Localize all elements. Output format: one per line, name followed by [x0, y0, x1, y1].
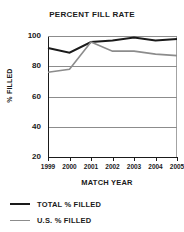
x-tick-label: 2004 — [144, 163, 168, 170]
legend-label: U.S. % FILLED — [37, 216, 91, 225]
legend-label: TOTAL % FILLED — [37, 200, 101, 209]
x-tick-label: 1999 — [36, 163, 60, 170]
x-tick-label: 2002 — [101, 163, 125, 170]
series-line — [48, 42, 177, 72]
legend-item: TOTAL % FILLED — [10, 196, 184, 212]
y-axis-title: % FILLED — [6, 56, 13, 116]
legend-line-icon — [10, 220, 30, 221]
y-tick-label: 20 — [21, 153, 41, 161]
x-tick-label: 2000 — [58, 163, 82, 170]
y-tick-label: 80 — [21, 62, 41, 70]
chart-figure: PERCENT FILL RATE % FILLED 10080604020 1… — [0, 0, 184, 232]
y-tick-label: 60 — [21, 93, 41, 101]
x-axis-title: MATCH YEAR — [30, 178, 184, 187]
legend-line-icon — [10, 203, 30, 205]
y-tick-label: 100 — [21, 32, 41, 40]
legend-item: U.S. % FILLED — [10, 212, 184, 228]
x-tick-label: 2005 — [165, 163, 184, 170]
x-tick-label: 2003 — [122, 163, 146, 170]
x-tick-label: 2001 — [79, 163, 103, 170]
chart-legend: TOTAL % FILLEDU.S. % FILLED — [10, 196, 184, 228]
y-tick-label: 40 — [21, 123, 41, 131]
